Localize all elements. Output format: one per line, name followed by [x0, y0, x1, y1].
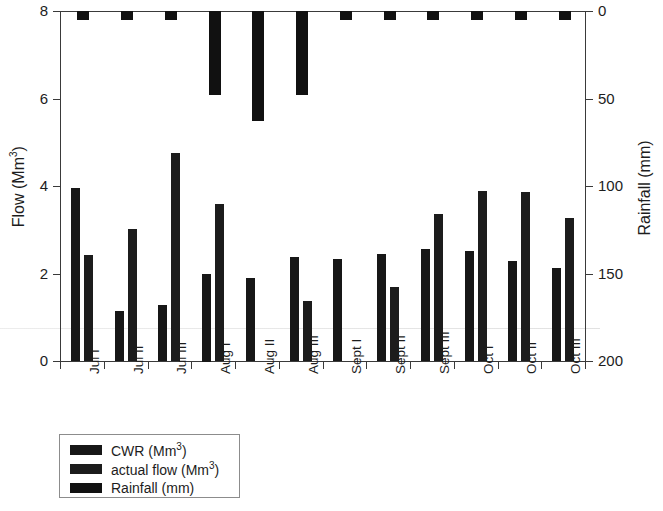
x-tick [235, 362, 236, 369]
x-axis-category-label: Aug I [219, 342, 233, 374]
chart-legend: CWR (Mm3)actual flow (Mm3)Rainfall (mm) [59, 434, 240, 498]
legend-label: Rainfall (mm) [111, 481, 194, 495]
y-tick-label-right: 150 [598, 266, 623, 281]
x-axis-category-label: Oct I [482, 345, 496, 374]
bar-cwr [508, 261, 517, 361]
legend-item: actual flow (Mm3) [70, 460, 239, 478]
y-tick-left [53, 99, 61, 100]
bar-cwr [465, 251, 474, 361]
legend-label-tail: ) [182, 443, 187, 459]
x-tick [104, 362, 105, 369]
y-tick-right [585, 186, 593, 187]
bar-rainfall [121, 11, 133, 20]
axis-line-top [60, 11, 586, 12]
bar-cwr [552, 268, 561, 361]
y-tick-right [585, 274, 593, 275]
y-tick-left [53, 11, 61, 12]
x-tick [148, 362, 149, 369]
y-axis-title-left: Flow (Mm3) [9, 117, 26, 257]
legend-swatch [70, 445, 102, 455]
bar-rainfall [559, 11, 571, 20]
x-tick [410, 362, 411, 369]
y-tick-left [53, 274, 61, 275]
y-axis-title-left-tail: ) [10, 146, 27, 151]
bar-rainfall [209, 11, 221, 95]
x-tick [541, 362, 542, 369]
x-axis-category-label: Oct III [569, 338, 583, 374]
bar-cwr [377, 254, 386, 361]
y-tick-label-right: 50 [598, 91, 615, 106]
y-tick-right [585, 11, 593, 12]
bar-rainfall [296, 11, 308, 95]
y-tick-left [53, 186, 61, 187]
x-tick [279, 362, 280, 369]
legend-item: Rainfall (mm) [70, 479, 239, 497]
legend-label: CWR (Mm3) [111, 442, 187, 458]
legend-label-main: CWR (Mm [111, 443, 176, 459]
y-tick-label-left: 0 [14, 353, 48, 368]
x-axis-category-label: Jul III [175, 342, 189, 374]
bar-actual-flow [478, 191, 487, 361]
x-tick [60, 362, 61, 369]
chart-root: 86420 050100150200 Jul IJul IIJul IIIAug… [0, 0, 663, 511]
y-axis-title-left-superscript: 3 [8, 151, 19, 157]
bar-rainfall [427, 11, 439, 20]
y-tick-label-right: 200 [598, 353, 623, 368]
bar-actual-flow [84, 255, 93, 361]
x-tick [498, 362, 499, 369]
y-tick-label-right: 0 [598, 3, 606, 18]
x-axis-category-label: Sept I [350, 339, 364, 374]
x-tick [454, 362, 455, 369]
x-axis-category-label: Oct II [525, 342, 539, 374]
x-axis-category-label: Aug III [307, 335, 321, 374]
legend-label-main: Rainfall (mm) [111, 480, 194, 496]
legend-label-tail: ) [215, 462, 220, 478]
x-tick [585, 362, 586, 369]
x-axis-category-label: Sept III [438, 331, 452, 374]
legend-item: CWR (Mm3) [70, 441, 239, 459]
bar-actual-flow [521, 192, 530, 361]
bar-actual-flow [215, 204, 224, 361]
y-tick-label-left: 6 [14, 91, 48, 106]
x-axis-category-label: Jul II [132, 345, 146, 374]
bar-cwr [246, 278, 255, 361]
legend-label-main: actual flow (Mm [111, 462, 209, 478]
x-axis-category-label: Aug II [263, 339, 277, 374]
bar-rainfall [384, 11, 396, 20]
y-tick-label-right: 100 [598, 178, 623, 193]
bar-rainfall [77, 11, 89, 20]
bar-rainfall [252, 11, 264, 121]
legend-label: actual flow (Mm3) [111, 461, 219, 477]
bar-cwr [71, 188, 80, 361]
bar-cwr [115, 311, 124, 361]
bar-cwr [421, 249, 430, 361]
bar-rainfall [515, 11, 527, 20]
bar-actual-flow [171, 153, 180, 361]
legend-swatch [70, 483, 102, 493]
y-axis-title-left-main: Flow (Mm [10, 157, 27, 227]
y-tick-label-left: 8 [14, 3, 48, 18]
bar-cwr [202, 274, 211, 362]
y-axis-title-right: Rainfall (mm) [637, 118, 653, 258]
x-tick [366, 362, 367, 369]
y-tick-label-left: 2 [14, 266, 48, 281]
bar-rainfall [340, 11, 352, 20]
legend-swatch [70, 464, 102, 474]
bar-actual-flow [128, 229, 137, 361]
x-axis-category-label: Sept II [394, 335, 408, 374]
legend-items: CWR (Mm3)actual flow (Mm3)Rainfall (mm) [70, 441, 239, 497]
bar-rainfall [165, 11, 177, 20]
bar-cwr [290, 257, 299, 361]
y-tick-right [585, 99, 593, 100]
x-axis-category-label: Jul I [88, 349, 102, 374]
x-tick [323, 362, 324, 369]
x-tick [191, 362, 192, 369]
bar-cwr [333, 259, 342, 361]
bar-cwr [158, 305, 167, 361]
y-tick-right [585, 361, 593, 362]
bar-rainfall [471, 11, 483, 20]
